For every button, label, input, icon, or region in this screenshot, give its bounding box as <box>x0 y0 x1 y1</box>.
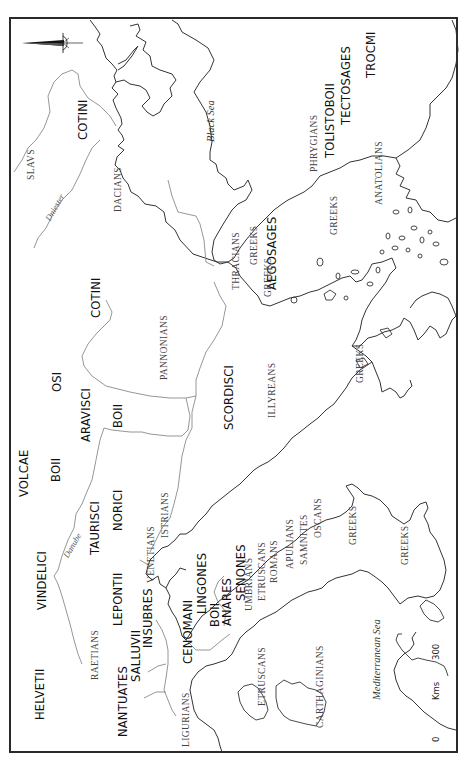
tribe-label-insubres: INSUBRES <box>143 588 155 648</box>
island-sicily <box>420 600 444 622</box>
people-label-romans: ROMANS <box>270 540 280 583</box>
tribe-label-boii-north: BOII <box>51 458 63 482</box>
tribe-label-nantuates: NANTUATES <box>118 666 130 737</box>
people-label-illyreans: ILLYREANS <box>268 363 278 418</box>
people-label-samnites: SAMNITES <box>300 514 310 565</box>
people-label-oscans: OSCANS <box>314 498 324 538</box>
people-label-greeks-thrace: GREEKS <box>250 226 260 265</box>
people-label-venetians: VENETIANS <box>147 526 157 583</box>
sea-label-mediterranean: Mediterranean Sea <box>372 619 383 700</box>
tribe-label-trocmi: TROCMI <box>366 31 378 78</box>
people-label-greeks-ionia: GREEKS <box>330 196 340 235</box>
coastline-aegean-anatolia-detail <box>396 158 456 222</box>
scale-label-unit: Kms <box>432 682 441 700</box>
tribe-label-helvetii: HELVETII <box>35 668 47 720</box>
tribe-label-scordisci: SCORDISCI <box>224 365 236 430</box>
border-boii-aravisci <box>82 398 190 504</box>
people-label-raetians: RAETIANS <box>91 630 101 680</box>
people-label-carthaginians: CARTHAGINIANS <box>316 645 326 728</box>
coastline-azov <box>118 46 138 70</box>
people-label-pannonians: PANNONIANS <box>160 315 170 380</box>
tribe-label-anares: ANARES <box>222 578 234 626</box>
people-label-etruscans-italy: ETRUSCANS <box>258 542 268 601</box>
people-label-ligurians: LIGURIANS <box>182 692 192 747</box>
people-label-greeks-mainland: GREEKS <box>356 344 366 383</box>
border-pannonians <box>82 282 226 398</box>
people-label-greeks-bruttium: GREEKS <box>401 526 411 565</box>
tribe-label-volcae: VOLCAE <box>19 450 31 498</box>
north-arrow-icon <box>22 33 83 53</box>
tribe-label-boii-pannonia: BOII <box>113 404 125 428</box>
river-danube <box>54 504 82 664</box>
coastline-crimea <box>116 24 176 116</box>
tribe-label-cenomani: CENOMANI <box>183 600 195 664</box>
border-dacians-south <box>168 180 214 266</box>
people-label-phrygians: PHRYGIANS <box>310 115 320 172</box>
tribe-label-aravisci: ARAVISCI <box>81 388 93 442</box>
tribe-label-lepontii: LEPONTII <box>113 572 125 626</box>
scale-label-300: 300 <box>432 644 441 660</box>
people-label-apulians: APULIANS <box>286 519 296 569</box>
tribe-label-tolistoboii: TOLISTOBOII <box>325 83 337 158</box>
tribe-label-osi: OSI <box>52 372 64 392</box>
aegean-islands <box>291 207 448 368</box>
coastline-north-africa <box>394 632 456 730</box>
people-label-slavs: SLAVS <box>27 149 37 180</box>
people-label-anatolians: ANATOLIANS <box>375 141 385 205</box>
people-label-etruscans-corsica: ETRUSCANS <box>258 647 268 706</box>
coastline-black-sea-north <box>90 20 252 290</box>
coastline-adriatic-east <box>148 362 372 566</box>
scale-label-zero: 0 <box>432 737 441 742</box>
tribe-label-norici: NORICI <box>113 489 125 531</box>
tribe-label-cotini-west: COTINI <box>91 277 103 318</box>
tribe-label-lingones: LINGONES <box>197 553 209 614</box>
people-label-greeks-apulia: GREEKS <box>349 506 359 545</box>
tribe-label-taurisci: TAURISCI <box>90 501 102 555</box>
people-label-thracians: THRACIANS <box>232 232 242 290</box>
tribe-label-vindelici: VINDELICI <box>37 551 49 610</box>
people-label-dacians: DACIANS <box>114 167 124 212</box>
people-label-istrians: ISTRIANS <box>161 492 171 538</box>
people-label-umbrians: UMBRIANS <box>245 558 255 611</box>
tribe-label-tectosages: TECTOSAGES <box>341 46 353 125</box>
people-label-greeks-aegean: GREEKS <box>264 258 274 297</box>
sea-label-black-sea: Black Sea <box>206 100 217 142</box>
tribe-label-cotini-east: COTINI <box>78 99 90 140</box>
coastline-greece-peloponnese <box>352 292 456 346</box>
